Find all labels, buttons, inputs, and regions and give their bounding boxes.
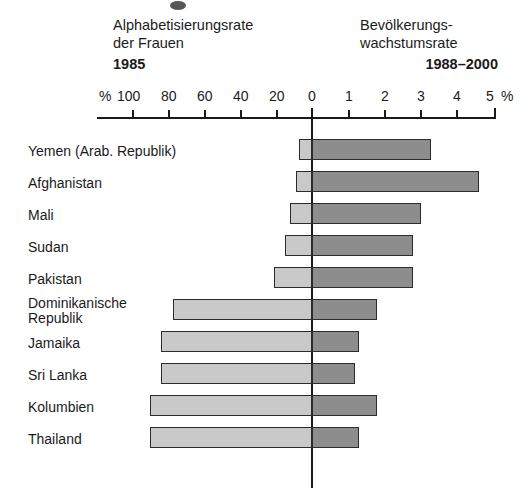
bar-row: Kolumbien [0,391,528,423]
row-label-3: Mali [28,199,228,231]
bar-row: Afghanistan [0,167,528,199]
literacy-bar-8 [161,363,312,384]
bar-row: Sri Lanka [0,359,528,391]
literacy-bar-7 [161,331,312,352]
literacy-bar-5 [274,267,312,288]
bar-row: Mali [0,199,528,231]
literacy-bar-10 [150,427,312,448]
growth-bar-1 [312,139,431,160]
literacy-bar-3 [290,203,312,224]
diverging-bar-chart: Alphabetisierungsrate der Frauen 1985 Be… [0,0,528,499]
bar-row: Yemen (Arab. Republik) [0,135,528,167]
literacy-bar-6 [173,299,312,320]
literacy-bar-2 [296,171,312,192]
literacy-bar-9 [150,395,312,416]
growth-bar-10 [312,427,359,448]
literacy-bar-1 [299,139,312,160]
row-label-4: Sudan [28,231,228,263]
growth-bar-7 [312,331,359,352]
row-label-5: Pakistan [28,263,228,295]
literacy-bar-4 [285,235,312,256]
bar-row: Thailand [0,423,528,455]
row-label-1: Yemen (Arab. Republik) [28,135,228,167]
bar-row: Sudan [0,231,528,263]
bar-row: Jamaika [0,327,528,359]
bar-row: Dominikanische Republik [0,295,528,327]
growth-bar-3 [312,203,421,224]
growth-bar-4 [312,235,413,256]
bar-rows: Yemen (Arab. Republik)AfghanistanMaliSud… [0,0,528,499]
growth-bar-5 [312,267,413,288]
growth-bar-2 [312,171,479,192]
growth-bar-9 [312,395,377,416]
row-label-2: Afghanistan [28,167,228,199]
bar-row: Pakistan [0,263,528,295]
growth-bar-8 [312,363,355,384]
growth-bar-6 [312,299,377,320]
